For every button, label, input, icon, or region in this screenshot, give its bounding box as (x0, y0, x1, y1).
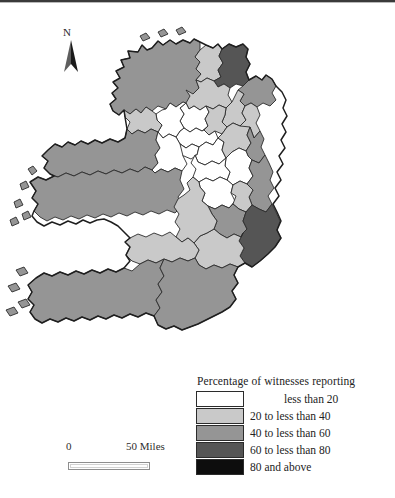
map-legend: Percentage of witnesses reporting less t… (196, 375, 392, 475)
legend-swatch-2 (196, 425, 244, 441)
legend-swatch-1 (196, 408, 244, 424)
legend-item-4: 80 and above (196, 458, 392, 475)
scale-bar-end-label: 50 Miles (126, 440, 165, 452)
north-arrow-icon (56, 28, 86, 78)
scale-bar: 0 50 Miles (60, 440, 195, 478)
scale-bar-start-label: 0 (66, 440, 72, 452)
county-fermanagh (180, 103, 209, 132)
legend-label-3: 60 to less than 80 (250, 444, 331, 456)
legend-label-4: 80 and above (250, 461, 311, 473)
legend-item-0: less than 20 (196, 390, 392, 407)
legend-swatch-3 (196, 442, 244, 458)
scale-bar-track (68, 462, 150, 470)
legend-rows: less than 20 20 to less than 40 40 to le… (196, 390, 392, 475)
north-arrow-label: N (63, 26, 71, 38)
north-arrow: N (56, 28, 86, 78)
legend-item-2: 40 to less than 60 (196, 424, 392, 441)
county-cork (154, 258, 238, 330)
coastal-islands-north (140, 27, 186, 41)
legend-item-3: 60 to less than 80 (196, 441, 392, 458)
scale-bar-track-inner (70, 464, 148, 468)
map-figure: N 0 50 Miles Percentage of witnesses rep… (0, 0, 395, 498)
scale-bar-labels: 0 50 Miles (60, 440, 195, 456)
legend-swatch-4 (196, 459, 244, 475)
coastal-islands-southwest (6, 267, 30, 316)
legend-label-0: less than 20 (284, 393, 338, 405)
page-top-edge-shadow (0, 2, 395, 3)
legend-item-1: 20 to less than 40 (196, 407, 392, 424)
county-wexford (239, 204, 281, 267)
legend-label-2: 40 to less than 60 (250, 427, 331, 439)
legend-title: Percentage of witnesses reporting (197, 375, 392, 387)
legend-label-1: 20 to less than 40 (250, 410, 331, 422)
legend-swatch-0 (196, 391, 244, 407)
